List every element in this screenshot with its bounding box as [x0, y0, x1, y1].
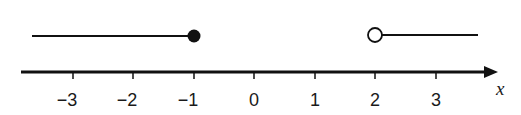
axis-tick-label: −3 — [57, 90, 78, 110]
axis-tick-label: −2 — [117, 90, 138, 110]
closed-endpoint-dot — [188, 30, 201, 43]
axis-ticks — [73, 73, 436, 79]
number-line-diagram: −3−2−10123 x — [0, 0, 521, 115]
axis-tick-label: 3 — [431, 90, 441, 110]
axis-tick-label: 2 — [370, 90, 380, 110]
axis-tick-labels: −3−2−10123 — [57, 90, 441, 110]
axis-tick-label: 0 — [249, 90, 259, 110]
open-endpoint-dot — [368, 28, 382, 42]
axis-tick-label: −1 — [178, 90, 199, 110]
axis-variable-label: x — [495, 78, 505, 99]
axis-tick-label: 1 — [310, 90, 320, 110]
number-line-svg: −3−2−10123 x — [0, 0, 521, 115]
x-axis-arrowhead — [484, 66, 498, 78]
